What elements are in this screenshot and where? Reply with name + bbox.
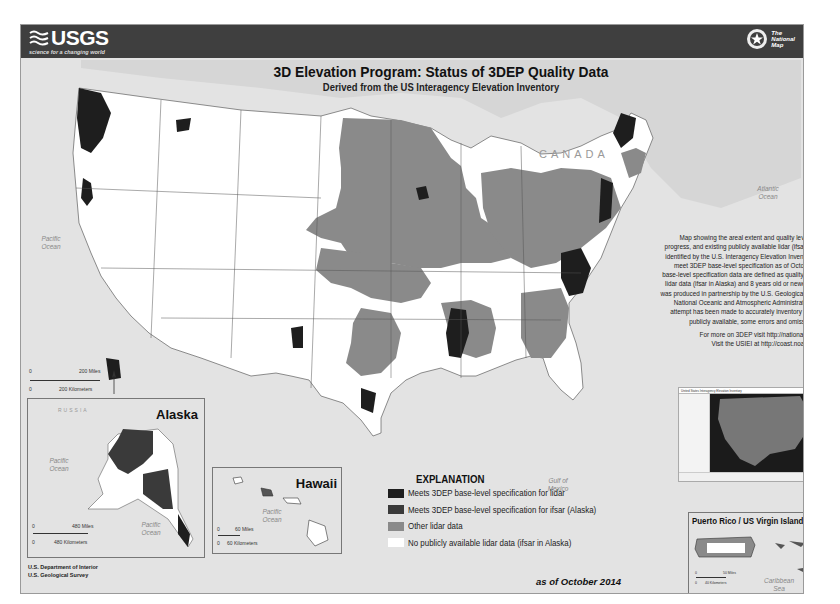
usgs-logo: USGS science for a changing world [29,28,109,55]
alaska-inset: Alaska RUSSIA Pacific Ocean Pacific Ocea… [27,398,205,558]
thumbnail-title: United States Interagency Elevation Inve… [681,389,742,393]
legend-swatch-ifsar [388,505,404,514]
hawaii-inset: Hawaii Pacific Ocean 0 60 Miles 0 60 Kil… [212,467,342,554]
main-scale-bar: 0 200 Miles 0 200 Kilometers [29,368,119,396]
caribbean-sea-label: Caribbean Sea [759,577,799,593]
usgs-wave-icon [29,30,49,46]
pacific-ocean-label: Pacific Ocean [36,235,66,251]
legend-item-ifsar: Meets 3DEP base-level specification for … [388,502,648,519]
thumbnail-footer [679,472,804,481]
legend-item-lidar: Meets 3DEP base-level specification for … [388,485,648,502]
puerto-rico-inset: Puerto Rico / US Virgin Islands Caribbea… [688,512,804,594]
usgs-tagline: science for a changing world [29,49,109,55]
legend-swatch-lidar [388,489,404,498]
map-description: Map showing the areal extent and quality… [657,233,804,349]
credit-doi: U.S. Department of Interior [28,563,98,571]
usiei-link[interactable]: Visit the USIEI at http://coast.noaa.gov… [657,339,804,348]
description-text: Map showing the areal extent and quality… [657,233,804,326]
credits: U.S. Department of Interior U.S. Geologi… [28,563,98,579]
title-block: 3D Elevation Program: Status of 3DEP Qua… [251,63,631,93]
legend-item-none: No publicly available lidar data (ifsar … [388,535,648,552]
header-bar: USGS science for a changing world The Na… [21,25,803,58]
canada-label: CANADA [539,148,609,160]
thumbnail-map [710,394,804,472]
alaska-scale-bar: 0 480 Miles 0 480 Kilometers [32,523,102,551]
puerto-rico-scale-bar: 0 50 Miles 0 40 Kilometers [695,571,745,593]
as-of-date: as of October 2014 [536,576,621,587]
legend-swatch-other [388,522,404,531]
atlantic-ocean-label: Atlantic Ocean [751,185,785,201]
hawaii-scale-bar: 0 60 Miles 0 60 Kilometers [217,526,277,550]
legend: EXPLANATION Meets 3DEP base-level specif… [388,473,648,551]
map-poster: USGS science for a changing world The Na… [20,24,804,594]
page-subtitle: Derived from the US Interagency Elevatio… [270,81,612,93]
legend-swatch-none [388,538,404,547]
north-arrow-icon [111,370,117,394]
legend-title: EXPLANATION [416,473,629,485]
3dep-link[interactable]: For more on 3DEP visit http://nationalma… [657,330,804,339]
usgs-wordmark: USGS [51,28,109,48]
credit-usgs: U.S. Geological Survey [28,571,98,579]
thumbnail-sidebar [679,394,710,472]
usiei-screenshot-thumbnail: United States Interagency Elevation Inve… [678,387,804,482]
page-title: 3D Elevation Program: Status of 3DEP Qua… [266,63,616,80]
star-seal-icon [746,28,768,50]
national-map-logo: The National Map [746,28,795,50]
legend-item-other-lidar: Other lidar data [388,518,648,535]
tnm-line-3: Map [771,42,795,48]
